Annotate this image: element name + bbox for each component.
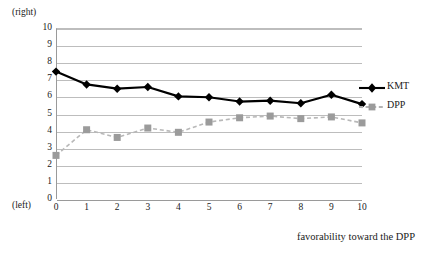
y-tick-label-2: 2 bbox=[6, 160, 52, 170]
x-tick-label-5: 5 bbox=[207, 203, 212, 213]
x-tick-label-4: 4 bbox=[176, 203, 181, 213]
legend-item-dpp: DPP bbox=[358, 95, 424, 114]
y-tick-label-10: 10 bbox=[6, 23, 52, 33]
gridline-y-9 bbox=[57, 46, 362, 47]
x-tick-label-10: 10 bbox=[357, 203, 367, 213]
x-tick-label-9: 9 bbox=[329, 203, 334, 213]
gridline-y-2 bbox=[57, 166, 362, 167]
x-tick-label-7: 7 bbox=[268, 203, 273, 213]
x-axis-title: favorability toward the DPP bbox=[0, 232, 415, 243]
gridline-y-5 bbox=[57, 115, 362, 116]
y-tick-label-5: 5 bbox=[6, 109, 52, 119]
y-tick-label-1: 1 bbox=[6, 177, 52, 187]
x-tick-label-1: 1 bbox=[84, 203, 89, 213]
y-axis-top-anchor-label: (right) bbox=[12, 8, 36, 18]
x-tick-label-6: 6 bbox=[237, 203, 242, 213]
legend-label-dpp: DPP bbox=[387, 100, 405, 110]
x-tick-label-0: 0 bbox=[54, 203, 59, 213]
gridline-y-8 bbox=[57, 63, 362, 64]
y-tick-label-4: 4 bbox=[6, 126, 52, 136]
y-tick-label-7: 7 bbox=[6, 75, 52, 85]
x-tick-label-2: 2 bbox=[115, 203, 120, 213]
gridline-y-4 bbox=[57, 132, 362, 133]
legend-swatch-dpp bbox=[358, 99, 386, 111]
chart-container: (right) (left) 012345678910 012345678910… bbox=[0, 0, 425, 262]
gridline-y-1 bbox=[57, 183, 362, 184]
plot-area bbox=[56, 28, 362, 199]
gridline-y-10 bbox=[57, 29, 362, 30]
gridline-y-7 bbox=[57, 80, 362, 81]
y-tick-label-3: 3 bbox=[6, 143, 52, 153]
y-tick-label-8: 8 bbox=[6, 57, 52, 67]
gridline-y-0 bbox=[57, 200, 362, 201]
gridline-y-6 bbox=[57, 97, 362, 98]
chart-legend: KMT DPP bbox=[358, 76, 424, 114]
x-axis-tick-labels: 012345678910 bbox=[56, 203, 362, 217]
x-tick-label-3: 3 bbox=[145, 203, 150, 213]
legend-label-kmt: KMT bbox=[387, 81, 409, 91]
gridline-y-3 bbox=[57, 149, 362, 150]
y-tick-label-6: 6 bbox=[6, 92, 52, 102]
x-tick-label-8: 8 bbox=[298, 203, 303, 213]
y-tick-label-0: 0 bbox=[6, 194, 52, 204]
legend-item-kmt: KMT bbox=[358, 76, 424, 95]
legend-swatch-kmt bbox=[358, 80, 386, 92]
y-axis-tick-labels: 012345678910 bbox=[0, 28, 52, 199]
y-tick-label-9: 9 bbox=[6, 40, 52, 50]
